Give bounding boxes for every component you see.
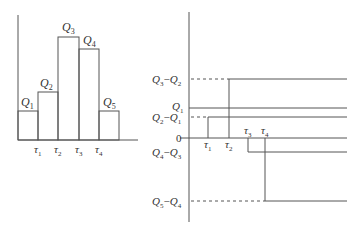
left-tick-tau2: τ2 [54, 143, 62, 158]
label-q5: Q5 [103, 95, 116, 111]
right-panel [180, 12, 347, 222]
left-tick-tau4: τ4 [95, 143, 103, 158]
left-tick-tau3: τ3 [75, 143, 83, 158]
diagram-canvas: Q1 Q2 Q3 Q4 Q5 τ1 τ2 τ3 τ4 Q3−Q2 Q1 Q2−Q… [0, 0, 362, 232]
bar-q3 [58, 37, 79, 140]
bar-q4 [79, 49, 99, 140]
right-tick-tau4: τ4 [261, 124, 269, 139]
label-q2: Q2 [40, 76, 53, 92]
right-tick-tau2: τ2 [225, 138, 233, 153]
right-tick-tau1: τ1 [204, 138, 212, 153]
ylabel-q3-q2: Q3−Q2 [152, 73, 182, 88]
bar-q5 [99, 111, 119, 140]
label-q3: Q3 [62, 20, 75, 36]
right-tick-tau3: τ3 [244, 124, 252, 139]
label-q4: Q4 [83, 33, 96, 49]
left-tick-tau1: τ1 [34, 143, 42, 158]
bar-q1 [18, 111, 38, 140]
ylabel-q4-q3: Q4−Q3 [152, 146, 182, 161]
bar-q2 [38, 92, 58, 140]
ylabel-q2-q1: Q2−Q1 [152, 111, 182, 126]
ylabel-zero: 0 [176, 132, 182, 144]
ylabel-q5-q4: Q5−Q4 [152, 195, 182, 210]
left-panel [18, 15, 138, 140]
label-q1: Q1 [21, 95, 34, 111]
